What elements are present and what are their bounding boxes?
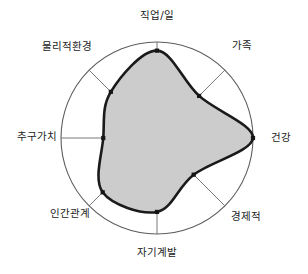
radar-marker-7 [109,90,113,94]
radar-marker-0 [155,49,159,53]
axis-label-bottom-left: 인간관계 [50,208,91,219]
radar-marker-4 [155,210,159,214]
axis-label-left: 추구가치 [17,131,58,142]
axis-label-bottom: 자기계발 [137,247,178,258]
axis-label-top-right: 가족 [232,40,252,51]
axis-label-top-left: 물리적환경 [42,41,93,52]
radar-chart-figure: 직업/일 가족 건강 경제적 자기계발 인간관계 추구가치 물리적환경 [0,0,308,274]
radar-marker-1 [197,94,201,98]
radar-marker-5 [101,190,105,194]
radar-marker-3 [192,173,196,177]
radar-marker-6 [101,136,105,140]
axis-label-top: 직업/일 [140,10,174,21]
axis-label-bottom-right: 경제적 [231,211,262,222]
radar-marker-2 [251,136,255,140]
axis-label-right: 건강 [271,132,291,143]
